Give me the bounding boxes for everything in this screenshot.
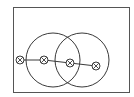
connector-segment-3	[74, 63, 92, 65]
connector-segment-2	[48, 60, 66, 62]
crossed-circle-icon	[40, 56, 48, 64]
markers-group	[16, 56, 100, 70]
circle-right	[55, 33, 109, 87]
connector-segments	[24, 60, 92, 66]
crossed-circle-icon	[16, 56, 24, 64]
crossed-circle-icon	[66, 59, 74, 67]
crossed-circle-icon	[92, 62, 100, 70]
diagram-canvas	[0, 0, 134, 97]
